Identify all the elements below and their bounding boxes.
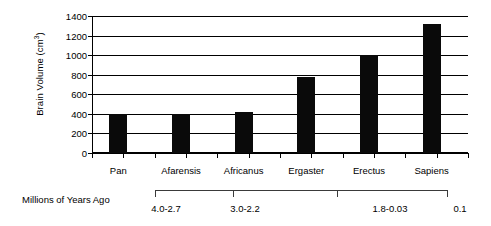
y-axis-tick-mark bbox=[88, 133, 92, 134]
y-axis-tick-mark bbox=[88, 114, 92, 115]
gridline bbox=[92, 114, 468, 115]
y-axis-tick-label: 200 bbox=[71, 128, 87, 139]
y-axis-tick-mark bbox=[88, 55, 92, 56]
x-axis-tick bbox=[123, 153, 124, 158]
y-axis-tick-label: 400 bbox=[71, 108, 87, 119]
x-axis-tick bbox=[468, 153, 469, 158]
x-axis-tick bbox=[437, 153, 438, 158]
y-axis-tick-label: 800 bbox=[71, 69, 87, 80]
y-axis-title-text: Brain Volume (cm bbox=[34, 39, 45, 116]
category-label: Ergaster bbox=[288, 165, 324, 176]
bracket-tick-left bbox=[155, 191, 156, 197]
y-axis-tick-mark bbox=[88, 16, 92, 17]
bar bbox=[109, 114, 127, 153]
millions-of-years-ago-values: 4.0-2.73.0-2.21.8-0.030.1 bbox=[0, 203, 491, 217]
x-axis-tick bbox=[249, 153, 250, 158]
x-axis-tick bbox=[405, 153, 406, 158]
years-range-label: 3.0-2.2 bbox=[230, 203, 260, 214]
bar bbox=[360, 55, 378, 153]
bar bbox=[297, 77, 315, 153]
y-axis-title-tail: ) bbox=[34, 32, 45, 35]
bracket-tick-right bbox=[447, 191, 448, 197]
bar bbox=[235, 112, 253, 153]
years-range-label: 0.1 bbox=[453, 203, 466, 214]
bracket-tick-2 bbox=[337, 191, 338, 197]
x-axis-tick bbox=[343, 153, 344, 158]
x-axis-category-labels: PanAfarensisAfricanusErgasterErectusSapi… bbox=[92, 165, 468, 179]
category-label: Sapiens bbox=[414, 165, 448, 176]
millions-of-years-ago-bracket bbox=[155, 190, 448, 191]
gridline bbox=[92, 94, 468, 95]
bar bbox=[172, 114, 190, 153]
brain-volume-chart: Brain Volume (cm3) 020040060080010001200… bbox=[0, 0, 491, 226]
y-axis-tick-mark bbox=[88, 75, 92, 76]
y-axis-tick-label: 1400 bbox=[66, 11, 87, 22]
years-range-label: 4.0-2.7 bbox=[151, 203, 181, 214]
y-axis-title-superscript: 3 bbox=[33, 36, 40, 40]
y-axis-tick-mark bbox=[88, 94, 92, 95]
bracket-tick-1 bbox=[233, 191, 234, 197]
x-axis-tick bbox=[155, 153, 156, 158]
gridline bbox=[92, 55, 468, 56]
y-axis-tick-label: 1200 bbox=[66, 30, 87, 41]
plot-area: 0200400600800100012001400 bbox=[92, 16, 468, 153]
category-label: Africanus bbox=[224, 165, 264, 176]
gridline bbox=[92, 16, 468, 17]
category-label: Erectus bbox=[353, 165, 385, 176]
x-axis-tick bbox=[311, 153, 312, 158]
x-axis-tick bbox=[374, 153, 375, 158]
y-axis-tick-mark bbox=[88, 36, 92, 37]
y-axis-title: Brain Volume (cm3) bbox=[33, 4, 45, 144]
years-range-label: 1.8-0.03 bbox=[373, 203, 408, 214]
x-axis-tick bbox=[280, 153, 281, 158]
x-axis-tick bbox=[186, 153, 187, 158]
y-axis-tick-label: 0 bbox=[82, 148, 87, 159]
y-axis-tick-label: 1000 bbox=[66, 50, 87, 61]
x-axis-tick bbox=[217, 153, 218, 158]
gridline bbox=[92, 133, 468, 134]
y-axis-tick-label: 600 bbox=[71, 89, 87, 100]
category-label: Afarensis bbox=[161, 165, 201, 176]
x-axis-tick bbox=[92, 153, 93, 158]
gridline bbox=[92, 36, 468, 37]
category-label: Pan bbox=[110, 165, 127, 176]
gridline bbox=[92, 75, 468, 76]
bar bbox=[423, 24, 441, 153]
